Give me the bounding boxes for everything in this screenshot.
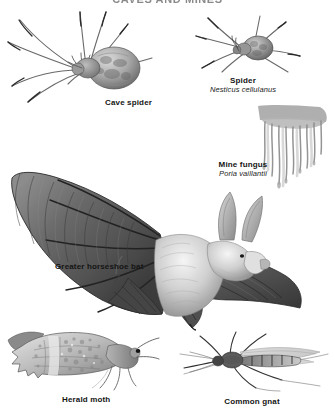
gnat-illustration [168, 330, 330, 392]
moth-illustration [4, 326, 159, 394]
label-cave-spider: Cave spider [105, 99, 152, 108]
bat-illustration [10, 148, 310, 330]
specimen-scientific-name: Nesticus cellulanus [210, 86, 276, 94]
page-title: CAVES AND MINES [0, 0, 335, 5]
specimen-common-name: Cave spider [105, 99, 152, 108]
label-spider: Spider Nesticus cellulanus [210, 77, 276, 94]
label-herald-moth: Herald moth [62, 396, 110, 405]
illustration-plate: CAVES AND MINES [0, 0, 335, 409]
specimen-common-name: Greater horseshoe bat [55, 263, 144, 272]
specimen-common-name: Common gnat [224, 398, 279, 407]
label-greater-horseshoe-bat: Greater horseshoe bat [55, 263, 144, 272]
specimen-common-name: Herald moth [62, 396, 110, 405]
spider-illustration [188, 14, 308, 76]
cave-spider-illustration [2, 8, 172, 104]
label-common-gnat: Common gnat [224, 398, 279, 407]
